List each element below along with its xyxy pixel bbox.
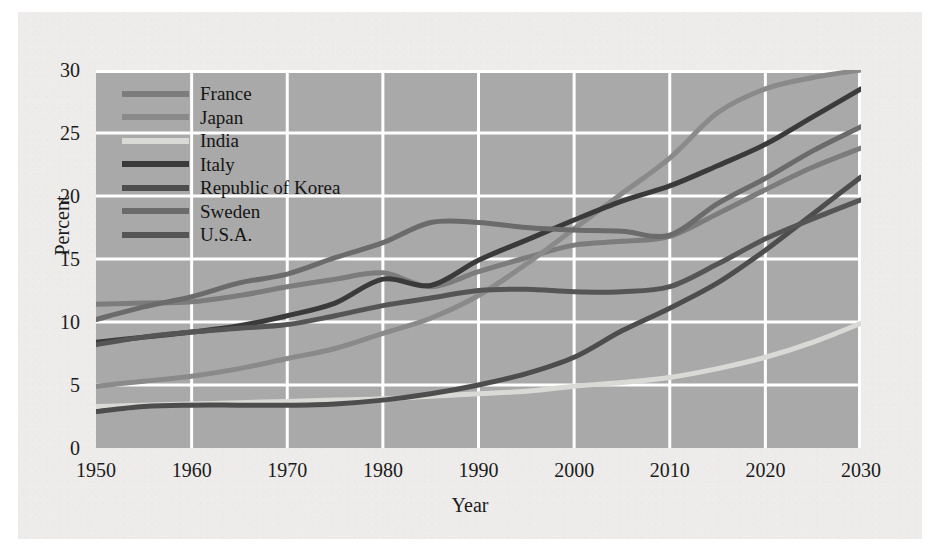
legend-label: France — [200, 84, 252, 103]
legend-swatch-icon — [122, 138, 189, 144]
legend-swatch-icon — [122, 91, 189, 97]
legend-label: Sweden — [200, 202, 260, 221]
legend-swatch-icon — [122, 232, 189, 238]
chart-legend: FranceJapanIndiaItalyRepublic of KoreaSw… — [122, 82, 422, 247]
x-tick-label: 1970 — [247, 460, 327, 480]
legend-swatch-icon — [122, 185, 189, 191]
y-tick-label: 10 — [18, 312, 80, 332]
y-axis-title: Percent — [51, 146, 74, 306]
legend-label: Republic of Korea — [200, 178, 340, 197]
x-tick-label: 2030 — [821, 460, 901, 480]
x-tick-label: 2020 — [725, 460, 805, 480]
legend-item[interactable]: France — [122, 82, 422, 106]
legend-label: Italy — [200, 155, 235, 174]
legend-item[interactable]: India — [122, 129, 422, 153]
legend-item[interactable]: Italy — [122, 153, 422, 177]
legend-label: India — [200, 131, 239, 150]
y-tick-label: 0 — [18, 438, 80, 458]
legend-swatch-icon — [122, 161, 189, 167]
legend-swatch-icon — [122, 114, 189, 120]
x-tick-label: 2010 — [630, 460, 710, 480]
x-tick-label: 1950 — [56, 460, 136, 480]
legend-item[interactable]: Sweden — [122, 200, 422, 224]
legend-label: U.S.A. — [200, 225, 252, 244]
legend-item[interactable]: U.S.A. — [122, 223, 422, 247]
legend-item[interactable]: Japan — [122, 106, 422, 130]
x-tick-label: 2000 — [534, 460, 614, 480]
figure-root: 051015202530 195019601970198019902000201… — [0, 0, 940, 551]
x-tick-label: 1990 — [439, 460, 519, 480]
x-axis-title: Year — [0, 494, 940, 517]
legend-item[interactable]: Republic of Korea — [122, 176, 422, 200]
legend-swatch-icon — [122, 208, 189, 214]
y-tick-label: 30 — [18, 60, 80, 80]
y-tick-label: 25 — [18, 123, 80, 143]
y-tick-label: 5 — [18, 375, 80, 395]
legend-label: Japan — [200, 108, 243, 127]
x-tick-label: 1980 — [343, 460, 423, 480]
x-tick-label: 1960 — [152, 460, 232, 480]
